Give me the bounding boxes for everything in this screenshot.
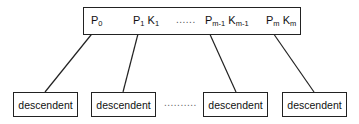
- entry-p0: P0: [91, 14, 103, 28]
- entry-pm-1-km-1: Pm-1 Km-1: [205, 14, 249, 28]
- descendent-box-1: descendent: [91, 92, 156, 117]
- link-p0: [45, 30, 95, 92]
- entry-p1-k1: P1 K1: [133, 14, 159, 28]
- children-ellipsis: ..........: [164, 97, 197, 108]
- entries-ellipsis: ......: [176, 14, 196, 25]
- link-pm-1: [208, 30, 236, 92]
- link-p1: [123, 30, 139, 92]
- link-pm: [271, 30, 314, 92]
- btree-node: P0 P1 K1 ...... Pm-1 Km-1 Pm Km: [83, 7, 301, 35]
- descendent-box-2: descendent: [203, 92, 268, 117]
- descendent-box-0: descendent: [13, 92, 78, 117]
- entry-pm-km: Pm Km: [266, 14, 296, 28]
- descendent-box-3: descendent: [282, 92, 347, 117]
